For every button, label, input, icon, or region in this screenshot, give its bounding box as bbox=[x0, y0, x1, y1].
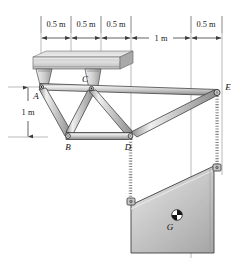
dim-label-0-5m-3: 0.5 m bbox=[106, 20, 126, 29]
joint-label-B: B bbox=[65, 142, 71, 152]
joint-label-G: G bbox=[167, 222, 174, 232]
joint-label-D: D bbox=[124, 142, 132, 152]
figure-canvas: 0.5 m 0.5 m 0.5 m 1 m 0.5 m 1 m 1 m bbox=[0, 0, 242, 268]
dim-label-0-5m-4: 0.5 m bbox=[196, 20, 216, 29]
dim-label-0-5m-2: 0.5 m bbox=[76, 20, 96, 29]
statics-figure: 0.5 m 0.5 m 0.5 m 1 m 0.5 m 1 m 1 m bbox=[0, 0, 242, 268]
chain-from-E bbox=[216, 96, 217, 168]
truss-diagonal-A-B bbox=[39, 88, 72, 136]
center-of-gravity-marker bbox=[172, 210, 183, 221]
truss-diagonal-C-B bbox=[66, 90, 95, 134]
ceiling-support-beam bbox=[33, 51, 133, 69]
truss-diagonal-C-D bbox=[89, 90, 133, 136]
joint-label-C: C bbox=[82, 74, 89, 84]
joint-label-A: A bbox=[32, 91, 39, 101]
suspended-plate bbox=[131, 166, 214, 253]
dimension-label-separators bbox=[41, 16, 222, 33]
dim-label-1m-front: 1 m bbox=[155, 34, 168, 43]
joint-label-E: E bbox=[224, 82, 231, 92]
truss-bottom-chord bbox=[66, 133, 132, 140]
dim-label-0-5m-1: 0.5 m bbox=[46, 20, 66, 29]
dim-label-vertical-1m: 1 m bbox=[22, 108, 35, 117]
truss-diagonal-D-E bbox=[131, 90, 218, 137]
